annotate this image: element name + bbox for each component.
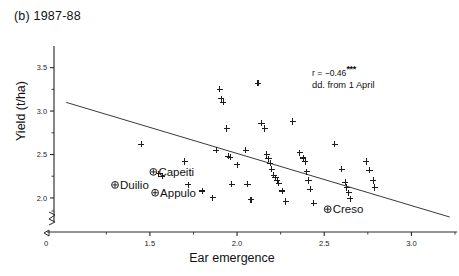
axes-layer [44,46,457,236]
data-point [283,198,289,204]
data-point [311,200,317,206]
trend-line [66,102,450,217]
cultivar-points-layer: CapeitiDuilioAppuloCreso [112,166,364,215]
data-point [370,177,376,183]
cultivar-marker [112,182,119,189]
cultivar-label-capeiti: Capeiti [158,166,194,178]
data-point [182,158,188,164]
data-point [217,86,223,92]
data-point [234,162,240,168]
cultivar-label-creso: Creso [333,203,364,215]
data-point [224,125,230,131]
data-point [243,147,249,153]
data-point [262,125,268,131]
data-point [255,80,261,86]
y-tick-label: 3.5 [37,63,47,72]
cultivar-marker [150,168,157,175]
x-tick-label: 2.5 [319,239,330,248]
cultivar-marker [324,206,331,213]
data-point [347,196,353,202]
data-point [305,177,311,183]
x-tick-label: 1.5 [145,239,156,248]
data-point [210,195,216,201]
y-tick-label: 2.0 [37,194,47,203]
data-point [332,141,338,147]
data-point [138,141,144,147]
y-tick-label: 2.5 [37,150,47,159]
cultivar-marker [152,189,159,196]
data-point [307,186,313,192]
data-point [339,166,345,172]
data-point [199,188,205,194]
cultivar-label-appulo: Appulo [160,187,196,199]
data-point [366,167,372,173]
data-point [258,120,264,126]
x-tick-label: 2.0 [232,239,243,248]
data-point [248,197,254,203]
y-tick-label: 3.0 [37,107,47,116]
axis-tick-labels: 3.53.02.52.001.52.02.53.0 [37,63,417,248]
data-point [279,188,285,194]
x-axis-label: Ear emergence [189,251,275,265]
cultivar-label-duilio: Duilio [120,179,149,191]
data-point [363,158,369,164]
data-point [297,150,303,156]
scatter-plot: CapeitiDuilioAppuloCreso 3.53.02.52.001.… [0,0,459,276]
data-point [229,181,235,187]
data-point [290,118,296,124]
x-tick-label-origin: 0 [44,239,48,248]
x-tick-label: 3.0 [406,239,417,248]
figure-panel: (b) 1987-88 Yield (t/ha) r = −0.46*** dd… [0,0,459,276]
data-point [244,181,250,187]
data-point [269,166,275,172]
data-point [372,184,378,190]
